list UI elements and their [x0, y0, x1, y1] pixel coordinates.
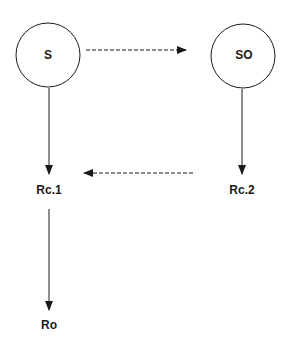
node-so-label: SO [235, 48, 252, 62]
node-s-label: S [44, 48, 52, 62]
node-rc2-label: Rc.2 [229, 183, 254, 197]
node-rc1-label: Rc.1 [36, 183, 61, 197]
node-ro-label: Ro [41, 318, 57, 332]
